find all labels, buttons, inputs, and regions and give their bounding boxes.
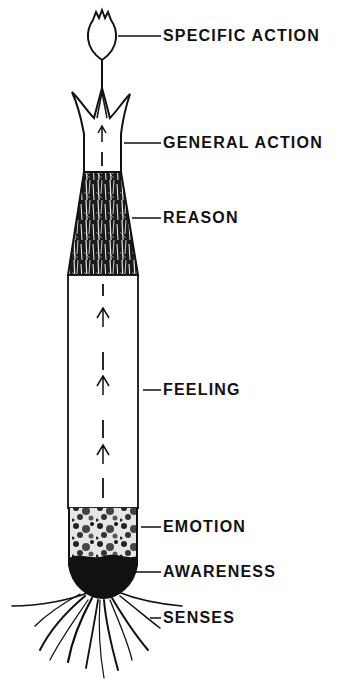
label-general-action: GENERAL ACTION (163, 134, 323, 152)
label-awareness: AWARENESS (163, 563, 276, 581)
label-senses: SENSES (163, 609, 235, 627)
flower-bud (88, 10, 116, 92)
plant-diagram (0, 0, 359, 689)
emotion-section (69, 508, 137, 560)
feeling-stalk (68, 275, 138, 508)
roots (12, 592, 182, 678)
label-reason: REASON (163, 209, 239, 227)
label-emotion: EMOTION (163, 518, 246, 536)
label-specific-action: SPECIFIC ACTION (163, 27, 320, 45)
crown-sheath (72, 88, 130, 172)
reason-section (68, 172, 138, 275)
label-feeling: FEELING (163, 381, 241, 399)
